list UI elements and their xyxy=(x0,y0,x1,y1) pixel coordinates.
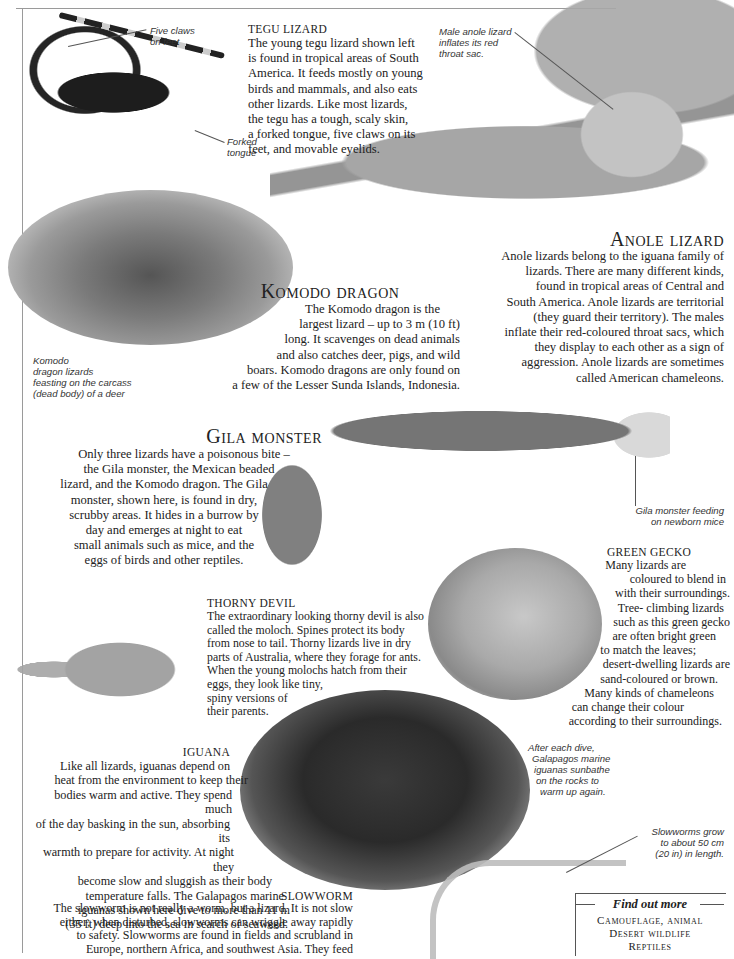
caption-slowworm: Slowworms grow to about 50 cm (20 in) in… xyxy=(600,826,724,859)
body-line: warmth to prepare for activity. At night… xyxy=(30,845,300,874)
body-line: a few of the Lesser Sunda Islands, Indon… xyxy=(160,378,460,393)
body-line: Like all lizards, iguanas depend on xyxy=(30,759,300,773)
body-line: is found in tropical areas of South xyxy=(248,51,448,66)
caption-line: Slowworms grow xyxy=(600,826,724,837)
thorny-devil-image xyxy=(10,620,210,730)
caption-line: on the rocks to xyxy=(528,775,610,786)
caption-anole: Male anole lizard inflates its red throa… xyxy=(439,26,512,59)
body-line: boars. Komodo dragons are only found on xyxy=(160,363,460,378)
body-line: eggs, they look like tiny, xyxy=(207,678,447,692)
caption-line: After each dive, xyxy=(528,742,610,753)
caption-line: (20 in) in length. xyxy=(600,848,724,859)
caption-line: to about 50 cm xyxy=(600,837,724,848)
body-line: other lizards. Like most lizards, xyxy=(248,97,448,112)
body-line: they display to each other as a sign of xyxy=(470,340,724,355)
find-out-more-link-desert-wildlife[interactable]: Desert wildlife xyxy=(575,927,725,940)
body-line: to match the leaves; xyxy=(560,643,730,657)
body-line: desert-dwelling lizards are xyxy=(560,657,730,671)
body-line: Tree- climbing lizards xyxy=(560,601,730,615)
caption-komodo: Komodo dragon lizards feasting on the ca… xyxy=(33,355,132,399)
body-line: to safety. Slowworms are found in fields… xyxy=(20,929,353,943)
body-line: of the day basking in the sun, absorbing… xyxy=(30,817,300,846)
body-line: lizards. There are many different kinds, xyxy=(470,264,724,279)
body-line: day and emerges at night to eat xyxy=(34,523,294,538)
body-line: the tegu has a tough, scaly skin, xyxy=(248,112,448,127)
caption-line: Male anole lizard xyxy=(439,26,512,37)
body-line: The slowworm is not really a worm, but a… xyxy=(20,902,353,916)
caption-five-claws: Five claws on feet xyxy=(150,25,195,47)
body-line: lizard, and the Komodo dragon. The Gila xyxy=(34,477,294,492)
tegu-title: TEGU LIZARD xyxy=(248,22,448,36)
caption-line: iguanas sunbathe xyxy=(528,764,610,775)
caption-line: throat sac. xyxy=(439,48,512,59)
caption-iguana: After each dive, Galapagos marine iguana… xyxy=(528,742,610,797)
body-line: scrubby areas. It hides in a burrow by xyxy=(34,508,294,523)
body-line: (they guard their territory). The males xyxy=(470,310,724,325)
body-line: their parents. xyxy=(207,705,447,719)
caption-line: on feet xyxy=(150,36,195,47)
body-line: spiny versions of xyxy=(207,692,447,706)
body-line: largest lizard – up to 3 m (10 ft) xyxy=(160,317,460,332)
body-line: inflate their red-coloured throat sacs, … xyxy=(470,325,724,340)
body-line: parts of Australia, where they forage fo… xyxy=(207,651,447,665)
gila-body: Only three lizards have a poisonous bite… xyxy=(34,447,294,569)
body-line: can change their colour xyxy=(560,700,730,714)
body-line: Only three lizards have a poisonous bite… xyxy=(34,447,294,462)
caption-line: Five claws xyxy=(150,25,195,36)
find-out-more-link-camouflage[interactable]: Camouflage, animal xyxy=(575,914,725,927)
leader-line xyxy=(635,456,636,506)
body-line: bodies warm and active. They spend much xyxy=(30,788,300,817)
body-line: The young tegu lizard shown left xyxy=(248,36,448,51)
caption-line: (dead body) of a deer xyxy=(33,388,132,399)
tegu-lizard-section: TEGU LIZARD The young tegu lizard shown … xyxy=(248,22,448,158)
caption-gila: Gila monster feeding on newborn mice xyxy=(600,505,724,527)
komodo-dragon-section: Komodo dragon xyxy=(170,280,460,302)
body-line: the Gila monster, the Mexican beaded xyxy=(34,462,294,477)
body-line: from nose to tail. Thorny lizards live i… xyxy=(207,637,447,651)
thorny-title: THORNY DEVIL xyxy=(207,596,447,610)
body-line: Many lizards are xyxy=(560,558,730,572)
caption-line: feasting on the carcass xyxy=(33,377,132,388)
body-line: with their surroundings. xyxy=(560,586,730,600)
caption-line: Komodo xyxy=(33,355,132,366)
body-line: America. It feeds mostly on young xyxy=(248,66,448,81)
body-line: either; when disturbed, slowworms can wr… xyxy=(20,916,353,930)
body-line: called American chameleons. xyxy=(470,371,724,386)
body-line: feet, and movable eyelids. xyxy=(248,142,448,157)
thorny-devil-section: THORNY DEVIL The extraordinary looking t… xyxy=(207,596,447,719)
body-line: Anole lizards belong to the iguana famil… xyxy=(470,249,724,264)
body-line: and also catches deer, pigs, and wild xyxy=(160,348,460,363)
body-line: Many kinds of chameleons xyxy=(560,686,730,700)
komodo-title: Komodo dragon xyxy=(170,280,460,302)
anole-lizard-section: Anole lizard xyxy=(470,228,724,250)
find-out-more-link-reptiles[interactable]: Reptiles xyxy=(575,940,725,953)
body-line: sand-coloured or brown. xyxy=(560,672,730,686)
body-line: monster, shown here, is found in dry, xyxy=(34,493,294,508)
caption-line: dragon lizards xyxy=(33,366,132,377)
body-line: such as this green gecko xyxy=(560,615,730,629)
anole-title: Anole lizard xyxy=(470,228,724,250)
body-line: are often bright green xyxy=(560,629,730,643)
green-gecko-section: GREEN GECKO xyxy=(607,545,731,559)
body-line: heat from the environment to keep their xyxy=(30,773,300,787)
body-line: aggression. Anole lizards are sometimes xyxy=(470,355,724,370)
body-line: called the moloch. Spines protect its bo… xyxy=(207,624,447,638)
body-line: eggs of birds and other reptiles. xyxy=(34,553,294,568)
body-line: The extraordinary looking thorny devil i… xyxy=(207,610,447,624)
caption-line: warm up again. xyxy=(528,786,610,797)
slowworm-body: The slowworm is not really a worm, but a… xyxy=(20,902,353,956)
body-line: a forked tongue, five claws on its xyxy=(248,127,448,142)
find-out-more-title: Find out more xyxy=(575,897,725,912)
body-line: coloured to blend in xyxy=(560,572,730,586)
gila-monster-section: Gila monster xyxy=(100,425,322,447)
gecko-body: Many lizards are coloured to blend in wi… xyxy=(560,558,730,728)
caption-line: Gila monster feeding xyxy=(600,505,724,516)
body-line: long. It scavenges on dead animals xyxy=(160,332,460,347)
body-line: become slow and sluggish as their body xyxy=(30,874,300,888)
body-line: according to their surroundings. xyxy=(560,714,730,728)
gecko-title: GREEN GECKO xyxy=(607,545,731,559)
gila-title: Gila monster xyxy=(100,425,322,447)
anole-body: Anole lizards belong to the iguana famil… xyxy=(470,249,724,386)
body-line: The Komodo dragon is the xyxy=(160,302,460,317)
body-line: found in tropical areas of Central and xyxy=(470,279,724,294)
